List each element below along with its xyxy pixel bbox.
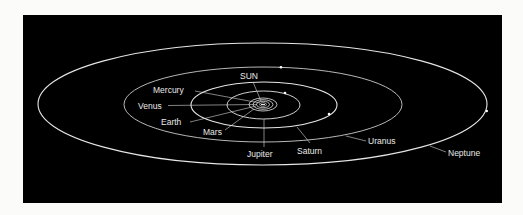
label-jupiter: Jupiter (247, 149, 273, 159)
label-mercury: Mercury (153, 85, 184, 95)
label-uranus: Uranus (368, 136, 395, 146)
label-mars: Mars (203, 127, 222, 137)
label-saturn: Saturn (297, 146, 322, 156)
leader-venus (168, 105, 257, 106)
leader-uranus (346, 136, 366, 141)
leader-mercury (195, 91, 260, 103)
solar-system-diagram: SUN Mercury Venus Earth Mars Jupiter Sat… (0, 0, 523, 215)
leader-earth (190, 106, 256, 122)
planet-saturn-icon (328, 113, 331, 116)
label-neptune: Neptune (448, 148, 480, 158)
planet-uranus-icon (280, 66, 283, 69)
planet-jupiter-icon (284, 92, 287, 95)
leader-neptune (430, 146, 446, 152)
label-sun: SUN (240, 71, 258, 81)
label-earth: Earth (161, 117, 182, 127)
planet-neptune-icon (486, 110, 488, 112)
label-venus: Venus (138, 101, 162, 111)
